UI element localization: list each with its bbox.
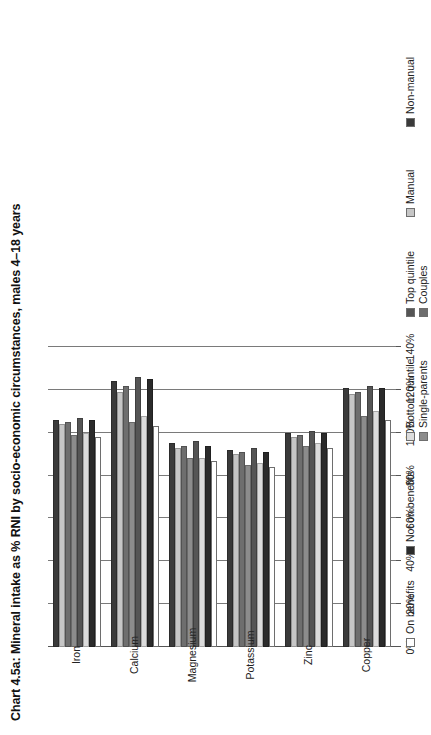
bar-group bbox=[164, 347, 222, 647]
legend-label: Non-manual bbox=[404, 57, 416, 114]
legend-item[interactable]: Single-parents bbox=[417, 360, 429, 441]
bar bbox=[309, 431, 315, 647]
category-label: Zinc bbox=[302, 645, 314, 665]
legend-label: Single-parents bbox=[417, 360, 429, 428]
bar bbox=[89, 420, 95, 647]
legend-label: Bottom quintile bbox=[404, 359, 416, 428]
bar bbox=[111, 381, 117, 647]
bar bbox=[227, 450, 233, 647]
legend-label: Top quintile bbox=[404, 251, 416, 304]
legend-item[interactable]: Bottom quintile bbox=[404, 359, 416, 441]
category-label: Magnesium bbox=[186, 628, 198, 682]
legend-swatch-icon bbox=[406, 308, 415, 317]
category-label: Iron bbox=[70, 646, 82, 664]
bar bbox=[211, 461, 217, 647]
bar bbox=[379, 388, 385, 647]
bar bbox=[147, 379, 153, 647]
bar bbox=[327, 448, 333, 647]
legend-label: Manual bbox=[404, 170, 416, 204]
bar bbox=[135, 377, 141, 647]
bar bbox=[59, 424, 65, 647]
bar bbox=[117, 392, 123, 647]
legend-item[interactable]: Couples bbox=[417, 265, 429, 317]
legend-swatch-icon bbox=[406, 208, 415, 217]
legend-swatch-icon bbox=[419, 308, 428, 317]
bar bbox=[71, 435, 77, 647]
chart-title: Chart 4.5a: Mineral intake as % RNI by s… bbox=[9, 204, 23, 721]
legend-label: Couples bbox=[417, 265, 429, 304]
axis-tick-mark bbox=[396, 475, 401, 476]
bar bbox=[53, 420, 59, 647]
bar bbox=[181, 446, 187, 647]
legend-swatch-icon bbox=[406, 638, 415, 647]
bar-group bbox=[280, 347, 338, 647]
bar bbox=[169, 443, 175, 647]
legend-item[interactable]: Manual bbox=[404, 170, 416, 217]
bar-group bbox=[222, 347, 280, 647]
bar bbox=[239, 452, 245, 647]
bar bbox=[153, 426, 159, 647]
axis-tick-mark bbox=[396, 517, 401, 518]
axis-tick-mark bbox=[396, 603, 401, 604]
legend-swatch-icon bbox=[406, 546, 415, 555]
axis-tick-mark bbox=[396, 646, 401, 647]
axis-tick-mark bbox=[396, 560, 401, 561]
bar bbox=[141, 416, 147, 647]
category-label: Copper bbox=[360, 638, 372, 672]
bar bbox=[367, 386, 373, 647]
axis-tick-mark bbox=[396, 346, 401, 347]
bar bbox=[291, 437, 297, 647]
bar bbox=[349, 394, 355, 647]
bar bbox=[343, 388, 349, 647]
bar bbox=[193, 441, 199, 647]
bar bbox=[373, 411, 379, 647]
category-label: Calcium bbox=[128, 636, 140, 674]
chart-legend: On benefitsNot on benefitsBottom quintil… bbox=[404, 7, 428, 647]
bar-group bbox=[48, 347, 106, 647]
bar bbox=[257, 463, 263, 647]
bar bbox=[321, 433, 327, 647]
bar bbox=[233, 454, 239, 647]
bar bbox=[315, 443, 321, 647]
bar bbox=[297, 435, 303, 647]
rotated-figure-wrapper: Chart 4.5a: Mineral intake as % RNI by s… bbox=[0, 0, 431, 735]
bar bbox=[95, 437, 101, 647]
chart-figure: Chart 4.5a: Mineral intake as % RNI by s… bbox=[0, 0, 431, 735]
plot-area: 0%20%40%60%80%100%120%140% IronCalciumMa… bbox=[48, 347, 396, 647]
bar bbox=[205, 446, 211, 647]
bar bbox=[77, 418, 83, 647]
legend-swatch-icon bbox=[406, 118, 415, 127]
bar bbox=[83, 433, 89, 647]
legend-label: On benefits bbox=[404, 580, 416, 634]
bar bbox=[269, 467, 275, 647]
bar-group bbox=[338, 347, 396, 647]
legend-label: Not on benefits bbox=[404, 471, 416, 542]
bar bbox=[385, 420, 391, 647]
legend-item[interactable]: Top quintile bbox=[404, 251, 416, 317]
bar bbox=[175, 448, 181, 647]
legend-item[interactable]: Non-manual bbox=[404, 57, 416, 127]
bar bbox=[355, 392, 361, 647]
bar bbox=[285, 433, 291, 647]
bar bbox=[199, 458, 205, 647]
bar bbox=[123, 386, 129, 647]
legend-item[interactable]: On benefits bbox=[404, 580, 416, 647]
legend-swatch-icon bbox=[406, 432, 415, 441]
category-label: Potassium bbox=[244, 630, 256, 679]
bar bbox=[129, 422, 135, 647]
bar bbox=[251, 448, 257, 647]
bar bbox=[245, 465, 251, 647]
bar bbox=[361, 416, 367, 647]
bar bbox=[303, 446, 309, 647]
legend-swatch-icon bbox=[419, 432, 428, 441]
axis-tick-mark bbox=[396, 432, 401, 433]
axis-tick-mark bbox=[396, 389, 401, 390]
bar-group bbox=[106, 347, 164, 647]
legend-item[interactable]: Not on benefits bbox=[404, 471, 416, 555]
bar bbox=[263, 452, 269, 647]
bar bbox=[65, 422, 71, 647]
bar bbox=[187, 458, 193, 647]
